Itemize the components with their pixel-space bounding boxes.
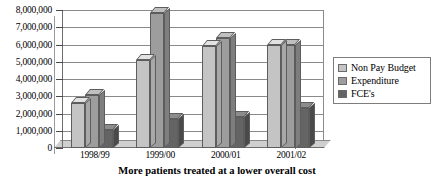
x-tick-label: 2000/01: [193, 150, 259, 160]
bar-group: [128, 10, 194, 148]
y-tick-label: 4,000,000: [0, 74, 52, 84]
y-tick-mark: [56, 114, 63, 115]
bar-side-face: [309, 103, 315, 148]
y-tick-label: 1,000,000: [0, 126, 52, 136]
bar: [267, 45, 281, 148]
y-tick-label: 3,000,000: [0, 91, 52, 101]
legend-label: Non Pay Budget: [351, 62, 416, 73]
bar: [136, 60, 150, 148]
x-tick-label: 1998/99: [62, 150, 128, 160]
bar-side-face: [281, 40, 287, 148]
bar-front-face: [71, 103, 85, 148]
bar: [71, 103, 85, 148]
y-tick-label: 5,000,000: [0, 57, 52, 67]
x-tick-label: 2001/02: [259, 150, 325, 160]
bar-group: [259, 10, 325, 148]
y-tick-mark: [56, 96, 63, 97]
bar-side-face: [150, 55, 156, 148]
legend-item[interactable]: Expenditure: [338, 74, 427, 87]
y-axis: 8,000,0007,000,0006,000,0005,000,0004,00…: [0, 0, 52, 160]
bar-side-face: [99, 89, 105, 148]
y-tick-mark: [56, 10, 63, 11]
legend-swatch-icon: [338, 90, 347, 98]
y-tick-mark: [56, 131, 63, 132]
bars-layer: [62, 10, 324, 148]
y-tick-label: 7,000,000: [0, 22, 52, 32]
bar-side-face: [85, 98, 91, 148]
bar-side-face: [230, 33, 236, 148]
bar-chart-figure: 8,000,0007,000,0006,000,0005,000,0004,00…: [0, 0, 434, 176]
legend-label: FCE's: [351, 88, 375, 99]
bar-side-face: [164, 8, 170, 148]
bar-group: [62, 10, 128, 148]
legend-swatch-icon: [338, 77, 347, 85]
legend-item[interactable]: Non Pay Budget: [338, 61, 427, 74]
bar-front-face: [267, 45, 281, 148]
y-tick-mark: [56, 27, 63, 28]
chart-legend: Non Pay BudgetExpenditureFCE's: [333, 57, 431, 104]
plot-area: [54, 10, 324, 148]
y-tick-mark: [56, 62, 63, 63]
bar-front-face: [136, 60, 150, 148]
bar-side-face: [295, 39, 301, 148]
y-tick-label: 2,000,000: [0, 109, 52, 119]
legend-swatch-icon: [338, 64, 347, 72]
y-tick-label: 8,000,000: [0, 5, 52, 15]
y-tick-mark: [56, 45, 63, 46]
x-axis: 1998/991999/002000/012001/02: [54, 150, 334, 164]
y-tick-mark: [56, 148, 63, 149]
bar-side-face: [244, 112, 250, 148]
y-tick-label: 6,000,000: [0, 40, 52, 50]
x-tick-label: 1999/00: [128, 150, 194, 160]
bar-front-face: [202, 46, 216, 148]
axis-left-back: [54, 16, 55, 154]
bar-side-face: [178, 114, 184, 148]
chart-caption: More patients treated at a lower overall…: [0, 165, 434, 176]
bar-group: [193, 10, 259, 148]
y-tick-mark: [56, 79, 63, 80]
y-tick-label: 0: [0, 143, 52, 153]
legend-item[interactable]: FCE's: [338, 87, 427, 100]
bar: [202, 46, 216, 148]
bar-side-face: [216, 41, 222, 148]
legend-label: Expenditure: [351, 75, 399, 86]
